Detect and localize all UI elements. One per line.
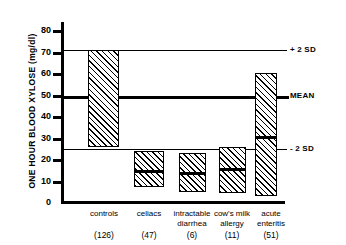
bar-celiacs	[134, 151, 164, 187]
reference-label-plus2sd: + 2 SD	[290, 46, 316, 54]
bar-controls	[88, 50, 119, 147]
y-tick-label-70: 70	[41, 48, 51, 57]
y-tick-label-60: 60	[41, 69, 51, 78]
x-axis-line	[61, 201, 285, 204]
sample-size-acute-enteritis: (51)	[249, 231, 293, 240]
y-tick-label-0: 0	[46, 198, 51, 207]
y-tick-80	[53, 30, 62, 33]
y-tick-30	[53, 138, 62, 141]
y-tick-label-30: 30	[41, 134, 51, 143]
bar-median-acute-enteritis	[255, 136, 277, 139]
category-label-acute-enteritis: acute enteritis	[249, 209, 293, 228]
y-tick-label-80: 80	[41, 26, 51, 35]
bar-median-cows-milk-allergy	[219, 168, 246, 171]
xylose-range-chart: ONE HOUR BLOOD XYLOSE (mg/dl) 80 70 60 5…	[0, 0, 346, 245]
y-tick-60	[53, 73, 62, 76]
y-tick-label-10: 10	[41, 177, 51, 186]
y-axis-title: ONE HOUR BLOOD XYLOSE (mg/dl)	[27, 11, 37, 211]
y-tick-40	[53, 116, 62, 119]
reference-label-minus2sd: - 2 SD	[290, 145, 314, 153]
reference-stub-plus2sd	[278, 50, 287, 51]
y-tick-50	[53, 95, 62, 98]
y-tick-label-50: 50	[41, 91, 51, 100]
bar-median-intractable-diarrhea	[179, 172, 206, 175]
reference-stub-mean	[280, 96, 289, 99]
reference-stub-minus2sd	[278, 149, 287, 150]
y-tick-label-40: 40	[41, 112, 51, 121]
y-tick-70	[53, 52, 62, 55]
bar-median-celiacs	[134, 170, 164, 173]
bar-acute-enteritis	[255, 73, 277, 196]
y-tick-20	[53, 159, 62, 162]
category-label-controls: controls	[76, 209, 132, 219]
reference-label-mean: MEAN	[290, 92, 314, 100]
sample-size-controls: (126)	[76, 231, 132, 240]
y-tick-10	[53, 181, 62, 184]
y-tick-label-20: 20	[41, 155, 51, 164]
